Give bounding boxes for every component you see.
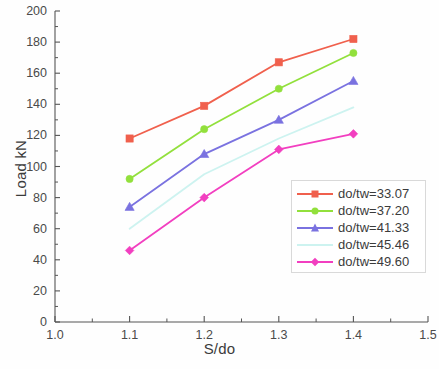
legend: do/tw=33.07do/tw=37.20do/tw=41.33do/tw=4…	[291, 180, 426, 273]
legend-marker-circle	[312, 207, 319, 214]
legend-line	[297, 244, 333, 246]
legend-item[interactable]: do/tw=41.33	[297, 219, 422, 236]
legend-sample	[297, 238, 333, 252]
legend-sample	[297, 221, 333, 235]
y-tick-label: 0	[0, 315, 47, 329]
data-point	[125, 202, 134, 210]
y-tick-label: 20	[0, 284, 47, 298]
legend-marker-triangle	[311, 223, 319, 231]
legend-item[interactable]: do/tw=49.60	[297, 253, 422, 270]
series-line	[130, 39, 354, 139]
legend-marker-diamond	[311, 257, 319, 265]
y-axis-title: Load kN	[12, 119, 29, 219]
data-point	[126, 135, 133, 142]
data-point	[349, 76, 358, 84]
y-tick-label: 180	[0, 35, 47, 49]
legend-sample	[297, 255, 333, 269]
data-point	[126, 175, 133, 182]
data-point	[350, 35, 357, 42]
tick-marks	[55, 11, 428, 322]
legend-marker-square	[312, 190, 319, 197]
y-tick-label: 40	[0, 253, 47, 267]
legend-label: do/tw=45.46	[333, 237, 409, 252]
axis-lines	[55, 11, 428, 322]
series-line	[130, 53, 354, 179]
chart-figure: 0204060801001201401601802001.01.11.21.31…	[0, 0, 439, 369]
legend-sample	[297, 187, 333, 201]
y-tick-label: 140	[0, 97, 47, 111]
legend-label: do/tw=41.33	[333, 220, 409, 235]
legend-label: do/tw=37.20	[333, 203, 409, 218]
data-point	[275, 85, 282, 92]
data-point	[201, 126, 208, 133]
data-point	[201, 102, 208, 109]
x-axis-title: S/do	[0, 340, 439, 357]
series-1	[126, 49, 357, 182]
legend-label: do/tw=49.60	[333, 254, 409, 269]
legend-sample	[297, 204, 333, 218]
legend-label: do/tw=33.07	[333, 186, 409, 201]
data-point	[274, 115, 283, 123]
y-tick-label: 200	[0, 4, 47, 18]
data-point	[275, 59, 282, 66]
series-0	[126, 35, 357, 142]
legend-item[interactable]: do/tw=33.07	[297, 185, 422, 202]
data-point	[349, 130, 358, 139]
y-tick-label: 160	[0, 66, 47, 80]
data-point	[350, 49, 357, 56]
legend-item[interactable]: do/tw=45.46	[297, 236, 422, 253]
legend-item[interactable]: do/tw=37.20	[297, 202, 422, 219]
y-tick-label: 60	[0, 222, 47, 236]
